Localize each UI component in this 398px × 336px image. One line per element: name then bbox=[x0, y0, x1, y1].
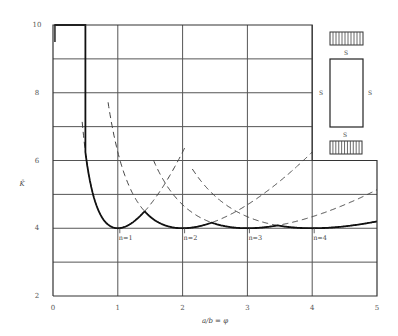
curve-n=1 bbox=[82, 122, 185, 228]
buckling-chart: 012345246810 n=1n=2n=3n=4 a/b = φ K̄ S S… bbox=[0, 0, 398, 336]
load-hatch-top bbox=[330, 32, 363, 45]
curve-n=2 bbox=[108, 102, 312, 228]
x-axis-label: a/b = φ bbox=[202, 317, 228, 325]
annotations: n=1n=2n=3n=4 bbox=[119, 228, 327, 242]
y-tick-label: 6 bbox=[35, 157, 40, 165]
annotation-n=1: n=1 bbox=[119, 234, 133, 242]
annotation-n=3: n=3 bbox=[248, 234, 262, 242]
edge-label-top: S bbox=[344, 49, 348, 56]
x-tick-label: 5 bbox=[375, 304, 379, 312]
y-tick-label: 8 bbox=[35, 89, 39, 97]
y-tick-label: 10 bbox=[33, 21, 42, 29]
edge-label-bottom: S bbox=[343, 131, 347, 138]
edge-label-right: S bbox=[368, 89, 372, 96]
x-tick-label: 0 bbox=[51, 304, 55, 312]
plate-rectangle bbox=[330, 59, 363, 127]
x-tick-label: 1 bbox=[116, 304, 120, 312]
load-hatch-bottom bbox=[330, 141, 362, 154]
annotation-n=2: n=2 bbox=[184, 234, 198, 242]
plate-inset: S S S S bbox=[319, 32, 372, 154]
x-tick-label: 4 bbox=[310, 304, 315, 312]
annotation-n=4: n=4 bbox=[313, 234, 327, 242]
edge-label-left: S bbox=[319, 89, 323, 96]
y-tick-label: 4 bbox=[35, 224, 40, 232]
x-tick-label: 3 bbox=[245, 304, 249, 312]
y-axis-label: K̄ bbox=[18, 179, 25, 188]
y-tick-label: 2 bbox=[35, 292, 39, 300]
x-tick-label: 2 bbox=[180, 304, 184, 312]
curve-n=4 bbox=[192, 169, 377, 228]
